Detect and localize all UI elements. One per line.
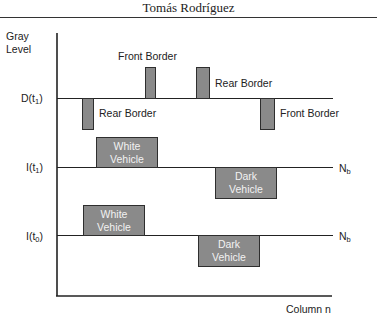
row-label-i-t0: I(t0): [26, 230, 43, 244]
row-d-t1: D(t1) Front Border Rear Border Rear Bord…: [21, 50, 339, 130]
nb-label-i-t0: Nb: [339, 230, 351, 244]
dark-vehicle-label-t0-line1: Dark: [218, 238, 241, 250]
rear-border-down-bar: [83, 99, 94, 130]
nb-label-i-t1: Nb: [339, 162, 351, 176]
white-vehicle-label-t1-line1: White: [114, 140, 141, 152]
white-vehicle-label-t1-line2: Vehicle: [110, 153, 144, 165]
dark-vehicle-label-t1-line2: Vehicle: [229, 183, 263, 195]
y-axis-label-line2: Level: [6, 43, 31, 55]
front-border-down-label: Front Border: [280, 107, 339, 119]
dark-vehicle-label-t1-line1: Dark: [235, 170, 258, 182]
x-axis-label: Column n: [286, 303, 331, 315]
rear-border-up-label: Rear Border: [215, 77, 273, 89]
front-border-down-bar: [261, 99, 275, 130]
rear-border-up-bar: [197, 68, 210, 99]
gray-level-diagram: Gray Level Column n D(t1) Front Border R…: [0, 0, 377, 328]
row-label-i-t1: I(t1): [26, 161, 43, 175]
front-border-up-label: Front Border: [118, 50, 177, 62]
rear-border-down-label: Rear Border: [99, 107, 157, 119]
row-i-t1: I(t1) Nb White Vehicle Dark Vehicle: [26, 138, 351, 199]
white-vehicle-label-t0-line2: Vehicle: [97, 221, 131, 233]
y-axis-label-line1: Gray: [6, 30, 30, 42]
front-border-up-bar: [146, 68, 156, 99]
row-label-d-t1: D(t1): [21, 92, 43, 106]
dark-vehicle-label-t0-line2: Vehicle: [212, 251, 246, 263]
white-vehicle-label-t0-line1: White: [101, 208, 128, 220]
row-i-t0: I(t0) Nb White Vehicle Dark Vehicle: [26, 206, 351, 267]
